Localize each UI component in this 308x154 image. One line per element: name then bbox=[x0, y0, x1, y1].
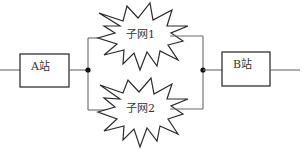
station-b-label: B站 bbox=[233, 57, 252, 71]
subnet-2-label: 子网2 bbox=[126, 102, 155, 115]
subnet-1-label: 子网1 bbox=[126, 28, 155, 41]
junction-left-dot bbox=[85, 67, 90, 72]
station-a-label: A站 bbox=[30, 59, 50, 73]
network-diagram: A站 子网1 子网2 B站 bbox=[0, 0, 308, 154]
